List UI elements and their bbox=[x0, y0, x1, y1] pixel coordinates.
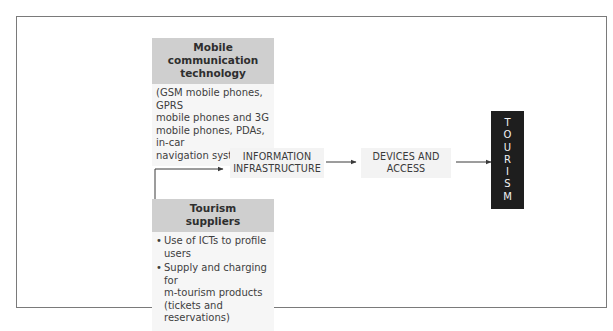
mobile-technology-line: mobile phones and 3G bbox=[156, 112, 271, 125]
mobile-technology-title-line2: technology bbox=[154, 67, 272, 80]
tourism-suppliers-body: Use of ICTs to profile users Supply and … bbox=[152, 232, 274, 331]
edge-suppliers-to-infrastructure bbox=[155, 169, 223, 199]
mobile-technology-line: (GSM mobile phones, GPRS bbox=[156, 87, 271, 112]
information-infrastructure-node: INFORMATION INFRASTRUCTURE bbox=[230, 148, 324, 178]
devices-access-line2: ACCESS bbox=[373, 163, 440, 176]
tourism-suppliers-title-line2: suppliers bbox=[154, 215, 272, 228]
mobile-technology-box: Mobile communication technology (GSM mob… bbox=[152, 38, 274, 166]
tourism-letter: O bbox=[504, 129, 512, 141]
information-infrastructure-line1: INFORMATION bbox=[233, 151, 321, 164]
mobile-technology-title-line1: Mobile communication bbox=[154, 41, 272, 67]
information-infrastructure-line2: INFRASTRUCTURE bbox=[233, 163, 321, 176]
supplier-bullet-line: m-tourism products bbox=[164, 287, 271, 300]
supplier-bullet-line: Use of ICTs to profile users bbox=[164, 235, 271, 260]
supplier-bullet-line: Supply and charging for bbox=[164, 262, 271, 287]
tourism-suppliers-header: Tourism suppliers bbox=[152, 199, 274, 232]
tourism-letter: T bbox=[504, 117, 510, 129]
tourism-letter: M bbox=[503, 191, 512, 203]
tourism-suppliers-title-line1: Tourism bbox=[154, 202, 272, 215]
supplier-bullet: Use of ICTs to profile users bbox=[156, 235, 271, 260]
tourism-letter: R bbox=[504, 154, 511, 166]
tourism-letter: I bbox=[506, 166, 509, 178]
tourism-node: T O U R I S M bbox=[491, 111, 524, 209]
supplier-bullet-line: (tickets and reservations) bbox=[164, 300, 271, 325]
tourism-suppliers-box: Tourism suppliers Use of ICTs to profile… bbox=[152, 199, 274, 331]
devices-access-node: DEVICES AND ACCESS bbox=[361, 148, 451, 178]
tourism-letter: U bbox=[504, 142, 511, 154]
devices-access-line1: DEVICES AND bbox=[373, 151, 440, 164]
supplier-bullet: Supply and charging for m-tourism produc… bbox=[156, 262, 271, 325]
tourism-letter: S bbox=[504, 178, 510, 190]
mobile-technology-line: mobile phones, PDAs, in-car bbox=[156, 125, 271, 150]
mobile-technology-header: Mobile communication technology bbox=[152, 38, 274, 84]
